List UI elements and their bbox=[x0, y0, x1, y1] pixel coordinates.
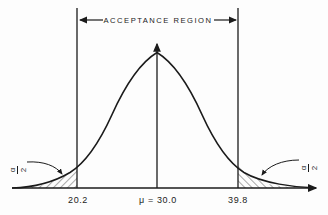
mean-tick-label: μ = 30.0 bbox=[139, 195, 177, 205]
left-alpha-denominator: 2 bbox=[19, 167, 28, 172]
left-alpha-symbol: α bbox=[8, 167, 17, 172]
lower-bound-tick-label: 20.2 bbox=[68, 195, 88, 205]
right-alpha-label-group: α 2 bbox=[299, 164, 319, 172]
right-alpha-leader bbox=[262, 160, 299, 175]
left-alpha-label-group: α 2 bbox=[8, 166, 28, 174]
normal-distribution-figure: ACCEPTANCE REGION α 2 α 2 20.2 μ = 30.0 … bbox=[0, 0, 328, 215]
upper-bound-tick-label: 39.8 bbox=[228, 195, 248, 205]
right-alpha-symbol: α bbox=[299, 165, 308, 170]
right-alpha-denominator: 2 bbox=[310, 165, 319, 170]
left-alpha-leader bbox=[27, 162, 62, 174]
acceptance-region-label: ACCEPTANCE REGION bbox=[104, 16, 213, 25]
